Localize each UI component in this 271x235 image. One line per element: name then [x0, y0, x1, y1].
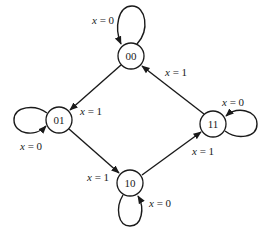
edge-01-to-10: [69, 129, 119, 173]
label-01-self: x = 0: [19, 140, 43, 152]
label-10-to-11: x = 1: [191, 145, 214, 157]
label-10-self: x = 0: [148, 197, 172, 209]
edge-10-self: [119, 195, 142, 226]
state-diagram: 00 01 10 11 x = 0 x = 1 x = 0 x = 1 x = …: [0, 0, 271, 235]
edge-00-self: [118, 6, 145, 44]
label-01-to-10: x = 1: [86, 171, 109, 183]
state-label: 01: [54, 114, 65, 126]
state-00: 00: [118, 43, 144, 69]
edge-01-self: [14, 108, 47, 134]
label-11-to-00: x = 1: [164, 66, 187, 78]
label-11-self: x = 0: [221, 96, 245, 108]
state-label: 10: [125, 177, 137, 189]
state-label: 11: [208, 118, 219, 130]
label-00-to-01: x = 1: [79, 105, 102, 117]
label-00-self: x = 0: [91, 14, 115, 26]
state-11: 11: [200, 111, 226, 137]
edge-11-self: [225, 110, 257, 136]
edge-00-to-01: [70, 65, 121, 110]
state-label: 00: [126, 50, 138, 62]
state-10: 10: [117, 170, 143, 196]
state-01: 01: [46, 107, 72, 133]
